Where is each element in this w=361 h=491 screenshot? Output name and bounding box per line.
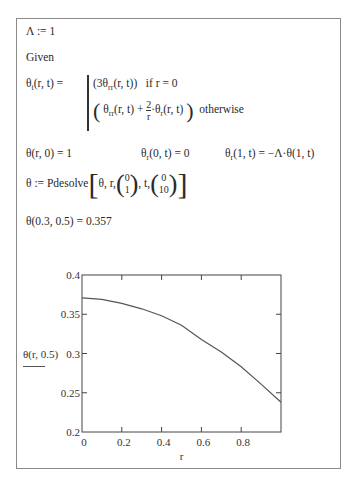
worksheet-frame: Λ := 1 Given θt(r, t) = (3θrr(r, t)) if … xyxy=(16,18,341,469)
x-tick-label: 0.4 xyxy=(157,436,171,448)
y-tick-label: 0.25 xyxy=(61,387,81,399)
plot-area: 00.20.40.60.80.20.250.30.350.4rθ(r, 0.5) xyxy=(23,269,281,462)
x-tick-label: 0.6 xyxy=(197,436,211,448)
y-tick-label: 0.4 xyxy=(66,269,80,281)
y-axis-label: θ(r, 0.5) xyxy=(23,348,58,361)
plot-border xyxy=(82,275,281,432)
data-series-line xyxy=(82,298,281,402)
x-tick-label: 0 xyxy=(81,436,87,448)
line-plot[interactable]: 00.20.40.60.80.20.250.30.350.4rθ(r, 0.5) xyxy=(17,19,342,470)
y-tick-label: 0.35 xyxy=(61,308,81,320)
x-tick-label: 0.2 xyxy=(117,436,131,448)
x-tick-label: 0.8 xyxy=(236,436,250,448)
y-tick-label: 0.2 xyxy=(66,426,80,438)
x-axis-label: r xyxy=(180,450,184,462)
y-tick-label: 0.3 xyxy=(66,348,80,360)
